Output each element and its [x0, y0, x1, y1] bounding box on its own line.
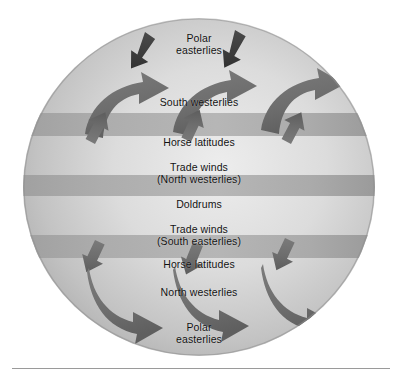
arrow-polar-se-1: [108, 349, 147, 356]
latitude-bands: [23, 113, 375, 258]
globe-illustration: [23, 18, 375, 356]
baseline-rule: [12, 368, 390, 369]
globe-svg: [23, 18, 375, 356]
band-doldrums: [23, 175, 375, 196]
figure-page: Polar easterlies South westerlies Horse …: [0, 0, 402, 379]
